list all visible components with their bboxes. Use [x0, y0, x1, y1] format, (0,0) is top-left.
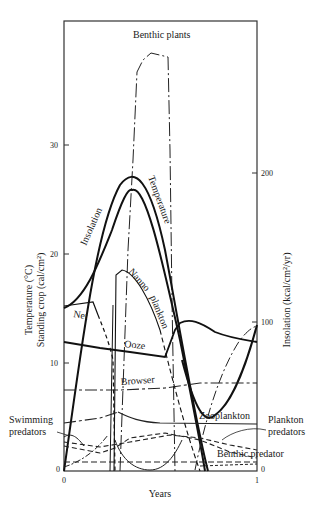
label-net: Net	[73, 308, 89, 321]
series-trough	[115, 440, 182, 470]
ecosystem-chart: 30 20 10 0 200 100 0 0 1 Years Temperatu…	[0, 0, 323, 521]
tick-left-0: 0	[56, 465, 60, 474]
tick-right-0: 0	[261, 465, 265, 474]
tick-x-1: 1	[255, 476, 259, 485]
label-benthic-plants: Benthic plants	[133, 29, 191, 40]
tick-x-0: 0	[62, 476, 66, 485]
y-axis-left-label-1: Temperature (°C)	[23, 265, 35, 335]
tick-right-200: 200	[261, 169, 273, 178]
label-benthic-predator: Benthic predator	[217, 448, 285, 459]
series-benthic-predator-2	[200, 464, 257, 466]
label-swimming-predators: predators	[9, 426, 46, 437]
tick-left-10: 10	[50, 359, 58, 368]
series-net-plankton-rise	[110, 305, 113, 471]
y-axis-right-label: Insolation (kcal/cm²/yr)	[281, 253, 293, 348]
leader-plankton-predators	[222, 429, 266, 440]
series-insolation	[64, 177, 208, 471]
tick-left-30: 30	[50, 141, 58, 150]
tick-left-20: 20	[50, 250, 58, 259]
label-swimming: Swimming	[9, 414, 53, 425]
left-axis-ticks	[64, 145, 69, 363]
label-plankton-predators-2: predators	[268, 426, 305, 437]
label-nanno: Nanno	[127, 266, 153, 293]
label-plankton-predators-1: Plankton	[268, 414, 304, 425]
plot-frame	[64, 21, 257, 471]
label-browser: Browser	[120, 374, 155, 387]
tick-right-100: 100	[261, 318, 273, 327]
y-axis-left-label-2: Standing crop (cal/cm²)	[35, 253, 47, 348]
right-axis-ticks	[252, 173, 257, 322]
label-plankton: plankton	[148, 294, 171, 331]
label-zooplankton: Zooplankton	[199, 410, 250, 421]
label-ooze: Ooze	[124, 338, 147, 351]
x-axis-label: Years	[149, 488, 171, 499]
series-browser	[64, 383, 257, 390]
